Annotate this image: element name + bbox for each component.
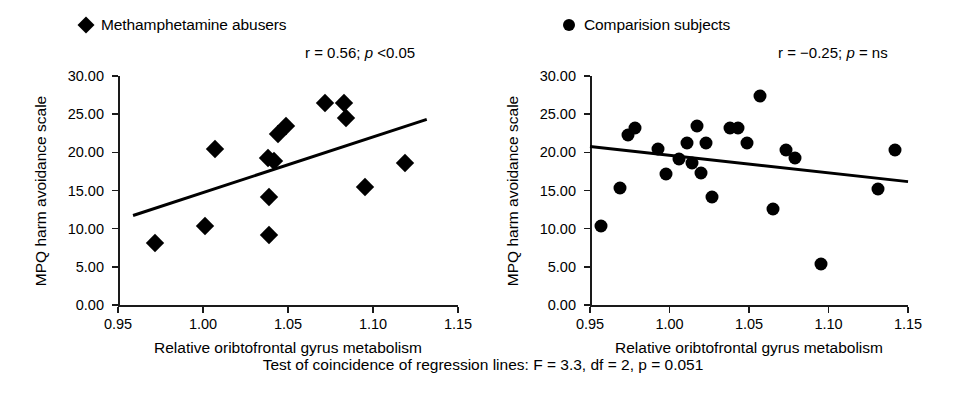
x-tick-label: 0.95 (104, 316, 132, 332)
x-tick (748, 307, 750, 313)
y-tick-label: 30.00 (42, 68, 104, 84)
data-point (195, 217, 213, 235)
x-tick (669, 307, 671, 313)
y-axis (590, 76, 592, 307)
y-tick-label: 10.00 (514, 221, 576, 237)
y-tick-label: 20.00 (514, 144, 576, 160)
x-tick (828, 307, 830, 313)
x-tick (287, 307, 289, 313)
data-point (628, 121, 641, 134)
data-point (695, 166, 708, 179)
y-tick-label: 25.00 (514, 106, 576, 122)
y-tick-label: 15.00 (42, 183, 104, 199)
panel-comparison: Comparision subjects r = −0.25; p = ns 0… (483, 0, 966, 345)
x-tick (202, 307, 204, 313)
x-tick (457, 307, 459, 313)
x-tick-label: 1.10 (359, 316, 387, 332)
data-point (614, 182, 627, 195)
figure-caption: Test of coincidence of regression lines:… (0, 356, 966, 374)
x-tick-label: 1.15 (444, 316, 472, 332)
data-point (741, 137, 754, 150)
x-tick-label: 1.00 (189, 316, 217, 332)
y-tick (584, 266, 590, 268)
data-point (337, 109, 355, 127)
data-point (706, 190, 719, 203)
data-point (754, 89, 767, 102)
x-tick (589, 307, 591, 313)
scatter-plot-methamphetamine: 0.005.0010.0015.0020.0025.0030.000.951.0… (0, 0, 483, 345)
data-point (700, 137, 713, 150)
data-point (680, 137, 693, 150)
data-point (260, 188, 278, 206)
y-tick (584, 75, 590, 77)
data-point (396, 154, 414, 172)
y-tick-label: 5.00 (514, 259, 576, 275)
data-point (766, 202, 779, 215)
data-point (652, 142, 665, 155)
y-tick (112, 228, 118, 230)
data-point (871, 182, 884, 195)
y-tick-label: 20.00 (42, 144, 104, 160)
y-tick (584, 152, 590, 154)
data-point (814, 257, 827, 270)
y-tick-label: 5.00 (42, 259, 104, 275)
y-tick-label: 10.00 (42, 221, 104, 237)
scatter-plot-comparison: 0.005.0010.0015.0020.0025.0030.000.951.0… (483, 0, 966, 345)
data-point (595, 219, 608, 232)
x-tick-label: 1.05 (274, 316, 302, 332)
data-point (690, 120, 703, 133)
data-point (731, 121, 744, 134)
x-tick (372, 307, 374, 313)
x-tick (907, 307, 909, 313)
panel-methamphetamine: Methamphetamine abusers r = 0.56; p <0.0… (0, 0, 483, 345)
y-tick-label: 0.00 (514, 297, 576, 313)
data-point (889, 144, 902, 157)
data-point (660, 167, 673, 180)
data-point (260, 226, 278, 244)
x-tick-label: 0.95 (576, 316, 604, 332)
y-tick-label: 0.00 (42, 297, 104, 313)
y-tick (584, 228, 590, 230)
x-tick-label: 1.10 (814, 316, 842, 332)
y-tick (112, 113, 118, 115)
y-tick (112, 304, 118, 306)
data-point (146, 234, 164, 252)
y-axis (118, 76, 120, 307)
regression-line (590, 145, 908, 183)
y-tick-label: 25.00 (42, 106, 104, 122)
y-tick (112, 75, 118, 77)
x-axis-title: Relative oribtofrontal gyrus metabolism (154, 339, 422, 357)
y-tick (584, 304, 590, 306)
y-axis-title: MPQ harm avoidance scale (32, 95, 50, 285)
data-point (206, 139, 224, 157)
y-axis-title: MPQ harm avoidance scale (504, 95, 522, 285)
data-point (355, 178, 373, 196)
x-tick (117, 307, 119, 313)
y-tick (112, 152, 118, 154)
data-point (673, 153, 686, 166)
x-axis-title: Relative oribtofrontal gyrus metabolism (615, 339, 883, 357)
x-tick-label: 1.00 (655, 316, 683, 332)
y-tick (584, 113, 590, 115)
x-tick-label: 1.05 (735, 316, 763, 332)
figure: Methamphetamine abusers r = 0.56; p <0.0… (0, 0, 966, 400)
data-point (316, 94, 334, 112)
x-tick-label: 1.15 (894, 316, 922, 332)
y-tick (112, 190, 118, 192)
y-tick (584, 190, 590, 192)
y-tick-label: 30.00 (514, 68, 576, 84)
y-tick (112, 266, 118, 268)
y-tick-label: 15.00 (514, 183, 576, 199)
data-point (789, 151, 802, 164)
